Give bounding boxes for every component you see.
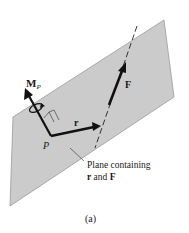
- point-label: P: [42, 140, 49, 151]
- figure-caption: (a): [85, 213, 96, 225]
- moment-diagram: MP P r F Plane containing r and F (a): [0, 0, 189, 233]
- moment-label: MP: [26, 77, 41, 91]
- annotation-line2: r and F: [87, 172, 116, 182]
- annotation-line1: Plane containing: [87, 160, 151, 170]
- position-vector-label: r: [74, 117, 79, 128]
- force-label: F: [125, 79, 131, 90]
